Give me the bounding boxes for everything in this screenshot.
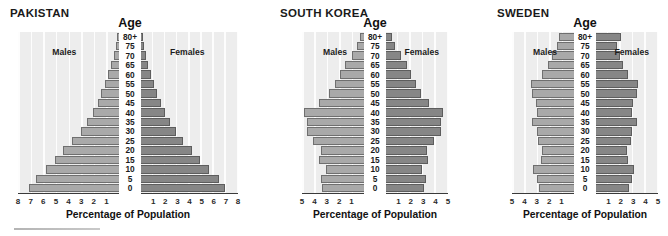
age-tick-label: 70 [574, 52, 596, 60]
bar-females-5 [596, 175, 632, 183]
gridline [512, 32, 514, 193]
bar-females-0 [596, 184, 629, 192]
bar-males-20 [542, 146, 574, 154]
bar-males-0 [539, 184, 574, 192]
bar-males-15 [541, 156, 574, 164]
bar-males-30 [537, 127, 574, 135]
chart-panel-sweden: SWEDENAge80+7570656055504540353025201510… [0, 0, 668, 236]
age-tick-label: 35 [574, 118, 596, 126]
age-tick-label: 65 [574, 61, 596, 69]
age-tick-label: 60 [574, 71, 596, 79]
age-tick-label: 50 [574, 90, 596, 98]
females-legend-label: Females [615, 47, 649, 57]
bar-males-5 [537, 175, 574, 183]
bar-males-25 [538, 137, 574, 145]
bar-females-45 [596, 99, 633, 107]
bar-females-50 [596, 89, 637, 97]
x-axis-title: Percentage of Population [505, 209, 665, 220]
bar-females-20 [596, 146, 627, 154]
bar-males-55 [531, 80, 574, 88]
bar-males-10 [533, 165, 574, 173]
age-tick-label: 30 [574, 127, 596, 135]
bar-females-30 [596, 127, 632, 135]
gridline [657, 32, 659, 193]
age-tick-label: 40 [574, 109, 596, 117]
bar-females-40 [596, 108, 632, 116]
bar-males-60 [542, 70, 574, 78]
footer-rule [14, 228, 100, 230]
males-legend-label: Males [533, 47, 557, 57]
bar-females-60 [596, 70, 628, 78]
bar-females-25 [596, 137, 631, 145]
age-tick-label: 75 [574, 42, 596, 50]
bar-males-40 [537, 108, 574, 116]
bar-females-80plus [596, 33, 621, 41]
bar-females-55 [596, 80, 638, 88]
x-tick-label-males-1: 1 [555, 198, 569, 206]
age-tick-label: 80+ [574, 33, 596, 41]
bar-males-80plus [559, 33, 574, 41]
bar-females-10 [596, 165, 634, 173]
bar-females-35 [596, 118, 637, 126]
bar-females-65 [596, 61, 623, 69]
x-axis-line-females [596, 193, 658, 194]
population-pyramids-figure: PAKISTANAge80+75706560555045403530252015… [0, 0, 668, 236]
bar-males-75 [557, 42, 574, 50]
age-tick-label: 5 [574, 175, 596, 183]
x-axis-line-males [512, 193, 574, 194]
bar-males-45 [536, 99, 574, 107]
age-tick-label: 10 [574, 165, 596, 173]
age-tick-label: 20 [574, 146, 596, 154]
age-tick-label: 0 [574, 184, 596, 192]
gridline [524, 32, 526, 193]
age-tick-label: 55 [574, 80, 596, 88]
bar-males-35 [532, 118, 574, 126]
x-tick-label-females-5: 5 [651, 198, 665, 206]
age-tick-label: 45 [574, 99, 596, 107]
bar-males-50 [532, 89, 574, 97]
bar-females-15 [596, 156, 628, 164]
age-axis-title: Age [565, 16, 605, 30]
age-tick-label: 25 [574, 137, 596, 145]
age-tick-label: 15 [574, 156, 596, 164]
country-title: SWEDEN [497, 7, 549, 19]
age-label-band: 80+757065605550454035302520151050 [574, 32, 596, 193]
bar-males-65 [548, 61, 574, 69]
